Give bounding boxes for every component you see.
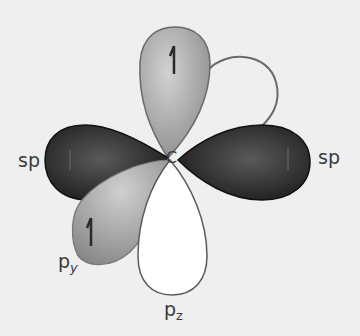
carbon-atom-label: C bbox=[166, 150, 177, 166]
sp-right-label: sp bbox=[318, 148, 340, 167]
pz-label-sub: z bbox=[176, 308, 183, 323]
sp-left-label: sp bbox=[18, 151, 40, 170]
pz-label: pz bbox=[164, 300, 183, 322]
py-label-sub: y bbox=[70, 260, 78, 275]
orbital-diagram: sp sp C py pz bbox=[0, 0, 360, 336]
p-back-lobe bbox=[208, 57, 278, 126]
py-label-main: p bbox=[58, 250, 70, 272]
py-label: py bbox=[58, 252, 78, 274]
orbital-drawing bbox=[0, 0, 360, 336]
sp-right-lobe bbox=[178, 125, 310, 200]
pz-label-main: p bbox=[164, 298, 176, 320]
